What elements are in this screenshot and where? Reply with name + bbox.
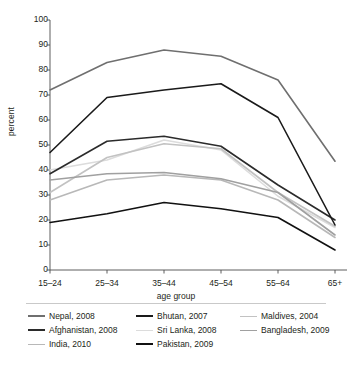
legend-item[interactable]: Bhutan, 2007 — [136, 312, 240, 321]
legend-line-swatch — [28, 344, 45, 345]
legend-divider — [26, 303, 326, 304]
x-axis-tick-label: 65+ — [305, 278, 352, 288]
series-line — [50, 140, 335, 228]
legend-item[interactable]: India, 2010 — [28, 340, 136, 349]
x-axis-title: age group — [0, 291, 352, 301]
legend-item[interactable]: Nepal, 2008 — [28, 312, 136, 321]
x-axis-tick-label: 25–34 — [77, 278, 137, 288]
legend-item-label: Afghanistan, 2008 — [49, 326, 118, 335]
legend: Nepal, 2008Bhutan, 2007Maldives, 2004Afg… — [28, 309, 346, 351]
legend-line-swatch — [28, 315, 45, 317]
legend-line-swatch — [136, 343, 153, 345]
legend-line-swatch — [136, 330, 153, 331]
x-axis-tick-label: 45–54 — [191, 278, 251, 288]
legend-item-label: Bangladesh, 2009 — [261, 326, 330, 335]
legend-item[interactable]: Bangladesh, 2009 — [240, 326, 346, 335]
legend-item-label: India, 2010 — [49, 340, 91, 349]
legend-item[interactable]: Maldives, 2004 — [240, 312, 346, 321]
legend-item-label: Nepal, 2008 — [49, 312, 95, 321]
legend-item-label: Sri Lanka, 2008 — [157, 326, 217, 335]
legend-item-label: Bhutan, 2007 — [157, 312, 208, 321]
legend-item[interactable]: Afghanistan, 2008 — [28, 326, 136, 335]
legend-line-swatch — [240, 330, 257, 331]
legend-line-swatch — [28, 329, 45, 331]
legend-line-swatch — [136, 315, 153, 317]
legend-item-label: Pakistan, 2009 — [157, 340, 213, 349]
legend-item-label: Maldives, 2004 — [261, 312, 318, 321]
x-axis-tick-label: 55–64 — [248, 278, 308, 288]
legend-item[interactable]: Sri Lanka, 2008 — [136, 326, 240, 335]
x-axis-tick-label: 35–44 — [134, 278, 194, 288]
legend-line-swatch — [240, 316, 257, 317]
line-chart: percent 1009080706050403020100 15–2425–3… — [0, 0, 352, 370]
plot-area — [0, 0, 352, 300]
x-axis-tick-label: 15–24 — [20, 278, 80, 288]
legend-item[interactable]: Pakistan, 2009 — [136, 340, 240, 349]
